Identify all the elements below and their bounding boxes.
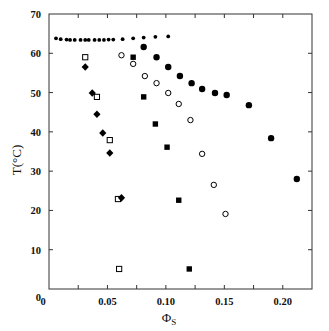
filled-square-marker: [141, 94, 146, 99]
filled-circle-marker: [165, 64, 171, 70]
filled-diamond-marker: [93, 110, 100, 118]
x-tick-label: 0.20: [274, 296, 292, 307]
y-tick-label: 20: [31, 205, 42, 216]
open-circle-marker: [188, 117, 193, 122]
filled-circle-marker: [188, 80, 194, 86]
open-circle-marker: [154, 80, 159, 85]
y-tick-label: 70: [31, 9, 42, 20]
filled-circle-marker: [153, 54, 159, 60]
x-axis-title: ΦS: [162, 310, 177, 327]
small-dot-marker: [102, 38, 106, 42]
filled-diamond-marker: [99, 129, 106, 137]
axis-ticks: [49, 14, 312, 289]
x-tick-label: 0.15: [215, 296, 233, 307]
open-circle-marker: [199, 151, 204, 156]
small-dot-marker: [166, 34, 170, 38]
open-circle-marker: [130, 61, 135, 66]
small-dot-marker: [83, 38, 87, 42]
filled-circle-marker: [268, 135, 274, 141]
small-dot-marker: [111, 38, 115, 42]
small-dot-marker: [87, 38, 91, 42]
filled-square-marker: [164, 144, 169, 149]
small-dot-marker: [79, 38, 83, 42]
small-dot-marker: [54, 36, 58, 40]
small-dot-marker: [153, 35, 157, 39]
open-circle-marker: [176, 101, 181, 106]
filled-circle-marker: [199, 86, 205, 92]
open-square-marker: [83, 55, 88, 60]
x-tick-label: 0.10: [157, 296, 175, 307]
small-dot-marker: [93, 38, 97, 42]
filled-circle-marker: [140, 44, 146, 50]
filled-circle-marker: [223, 92, 229, 98]
small-dot-marker: [59, 37, 63, 41]
open-circle-marker: [119, 53, 124, 58]
y-tick-label: 10: [31, 245, 42, 256]
filled-circle-marker: [212, 90, 218, 96]
filled-circle-marker: [294, 176, 300, 182]
open-square-marker: [107, 138, 112, 143]
filled-diamond-marker: [106, 149, 113, 157]
open-circle-marker: [142, 73, 147, 78]
x-tick-label: 0.05: [98, 296, 116, 307]
small-dot-marker: [68, 38, 72, 42]
y-tick-label: 50: [31, 88, 42, 99]
open-circle-marker: [166, 90, 171, 95]
scatter-chart: 00.050.100.150.20010203040506070 T(°C) Φ…: [0, 0, 329, 331]
filled-square-marker: [153, 121, 158, 126]
data-markers: [54, 34, 300, 271]
x-axis-symbol: Φ: [162, 310, 172, 325]
y-tick-label: 60: [31, 48, 42, 59]
small-dot-marker: [121, 37, 125, 41]
small-dot-marker: [97, 38, 101, 42]
tick-labels: 00.050.100.150.20010203040506070: [31, 9, 292, 307]
x-tick-label: 0: [40, 296, 45, 307]
open-square-marker: [117, 266, 122, 271]
x-axis-subscript: S: [171, 317, 176, 327]
plot-frame: [49, 14, 312, 289]
filled-square-marker: [187, 266, 192, 271]
open-square-marker: [94, 94, 99, 99]
y-tick-label: 30: [31, 166, 42, 177]
small-dot-marker: [65, 38, 69, 42]
small-dot-marker: [73, 38, 77, 42]
y-tick-label: 0: [36, 292, 41, 303]
y-axis-title: T(°C): [9, 145, 24, 175]
small-dot-marker: [142, 36, 146, 40]
filled-circle-marker: [246, 102, 252, 108]
small-dot-marker: [107, 38, 111, 42]
filled-circle-marker: [177, 73, 183, 79]
open-circle-marker: [223, 211, 228, 216]
small-dot-marker: [131, 36, 135, 40]
filled-square-marker: [130, 55, 135, 60]
y-tick-label: 40: [31, 127, 42, 138]
open-circle-marker: [211, 182, 216, 187]
filled-square-marker: [176, 198, 181, 203]
filled-diamond-marker: [82, 63, 89, 71]
